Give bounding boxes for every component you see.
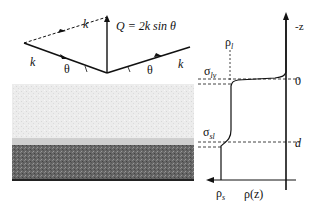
theta-out-label: θ [147, 64, 153, 76]
k-incident-label: k [30, 56, 35, 68]
sigma-lv-label: σlv [204, 65, 216, 80]
z-axis-label: -z [295, 21, 304, 32]
interface-band [12, 138, 194, 145]
k-dashed-label: k [83, 18, 88, 30]
zero-label: 0 [295, 75, 301, 87]
rho-s-label: ρs [216, 187, 225, 202]
rho-z-label: ρ(z) [244, 188, 263, 200]
reflectivity-diagram: k k k θ θ Q = 2k sin θ -z 0 d ρl σlv σsl… [0, 0, 314, 211]
k-scattered-label: k [178, 58, 183, 70]
liquid-layer [12, 84, 194, 138]
theta-in-label: θ [64, 63, 70, 75]
density-profile [198, 12, 300, 190]
substrate-layer [12, 145, 194, 181]
d-label: d [295, 137, 301, 149]
q-equation: Q = 2k sin θ [116, 20, 176, 32]
rho-l-label: ρl [225, 36, 233, 51]
sigma-sl-label: σsl [203, 126, 215, 141]
